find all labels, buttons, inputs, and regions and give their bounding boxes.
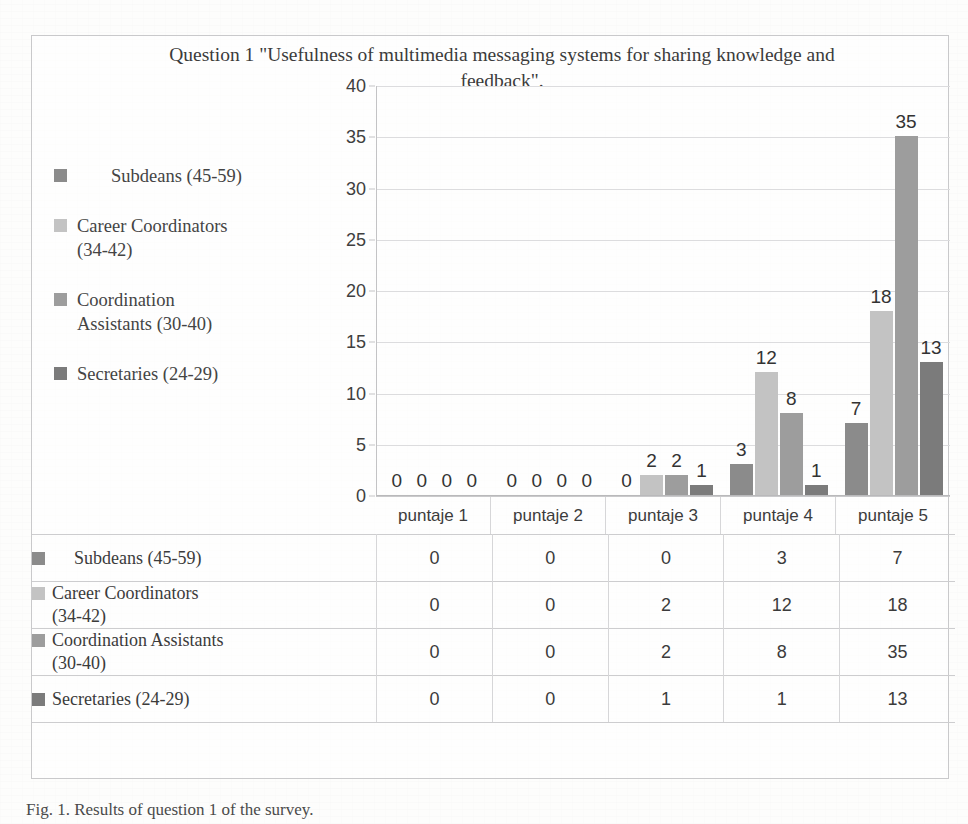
bar-value-label: 13 <box>921 337 942 359</box>
bar[interactable] <box>780 413 803 495</box>
bar-slot: 0 <box>410 86 433 495</box>
y-axis-tick-mark <box>369 342 375 343</box>
table-cell-value: 2 <box>608 582 724 629</box>
table-row: Secretaries (24-29)001113 <box>32 676 955 723</box>
data-table: Subdeans (45-59)00037Career Coordinators… <box>32 534 955 723</box>
bar-slot: 2 <box>640 86 663 495</box>
table-row-label-text: Career Coordinators (34-42) <box>52 582 198 628</box>
bar-slot: 13 <box>920 86 943 495</box>
bar-value-label: 8 <box>786 388 797 410</box>
bar[interactable] <box>665 475 688 496</box>
table-cell-value: 0 <box>608 535 724 582</box>
bar-group: 7183513 <box>836 86 951 495</box>
table-cell-value: 35 <box>840 629 955 676</box>
table-row-label-inner: Subdeans (45-59) <box>32 547 376 570</box>
bar-value-label: 0 <box>467 470 478 492</box>
bar[interactable] <box>690 485 713 495</box>
bar-value-label: 3 <box>736 439 747 461</box>
table-cell-value: 1 <box>724 676 840 723</box>
y-axis-tick-label: 15 <box>346 332 366 353</box>
table-cell-value: 1 <box>608 676 724 723</box>
legend-item-label: Secretaries (24-29) <box>77 362 218 386</box>
table-cell-value: 2 <box>608 629 724 676</box>
table-row-label-text: Subdeans (45-59) <box>52 547 201 570</box>
y-axis-tick-label: 5 <box>356 434 366 455</box>
bar[interactable] <box>640 475 663 496</box>
y-axis-tick-labels: 4035302520151050 <box>332 86 366 496</box>
figure-container: Question 1 "Usefulness of multimedia mes… <box>31 35 949 779</box>
legend-item[interactable]: Secretaries (24-29) <box>54 362 322 386</box>
bar[interactable] <box>845 423 868 495</box>
scanned-page: Question 1 "Usefulness of multimedia mes… <box>0 0 968 824</box>
bar[interactable] <box>755 372 778 495</box>
table-cell-value: 12 <box>724 582 840 629</box>
bar-slot: 0 <box>500 86 523 495</box>
bar-value-label: 2 <box>671 450 682 472</box>
y-axis-tick-label: 30 <box>346 178 366 199</box>
y-axis-tick-mark <box>369 444 375 445</box>
bar-slot: 0 <box>385 86 408 495</box>
legend-item-label: Career Coordinators (34-42) <box>77 214 228 262</box>
bar-group: 0221 <box>607 86 722 495</box>
y-axis-tick-mark <box>369 239 375 240</box>
y-axis-tick-label: 35 <box>346 127 366 148</box>
bar[interactable] <box>895 136 918 495</box>
y-axis-tick-label: 40 <box>346 76 366 97</box>
data-table-body: Subdeans (45-59)00037Career Coordinators… <box>32 535 955 723</box>
bar-value-label: 7 <box>851 398 862 420</box>
bar-value-label: 1 <box>696 460 707 482</box>
table-cell-value: 0 <box>492 582 608 629</box>
legend-item[interactable]: Subdeans (45-59) <box>54 164 322 188</box>
table-row-label: Subdeans (45-59) <box>32 535 377 582</box>
legend-item[interactable]: Coordination Assistants (30-40) <box>54 288 322 336</box>
bar-group: 0000 <box>492 86 607 495</box>
table-row-label-inner: Career Coordinators (34-42) <box>32 582 376 628</box>
table-cell-value: 13 <box>840 676 955 723</box>
bar-slot: 1 <box>805 86 828 495</box>
y-axis-tick-mark <box>369 496 375 497</box>
legend-item-label: Coordination Assistants (30-40) <box>77 288 212 336</box>
legend-item[interactable]: Career Coordinators (34-42) <box>54 214 322 262</box>
y-axis-tick-label: 20 <box>346 281 366 302</box>
table-row-label: Coordination Assistants (30-40) <box>32 629 377 676</box>
table-row-label-inner: Coordination Assistants (30-40) <box>32 629 376 675</box>
y-axis-tick-mark <box>369 188 375 189</box>
bar-slot: 7 <box>845 86 868 495</box>
table-series-color-swatch-icon <box>32 693 45 706</box>
bar-value-label: 35 <box>896 111 917 133</box>
x-axis-category-label: puntaje 5 <box>836 497 950 534</box>
x-axis-category-header: puntaje 1puntaje 2puntaje 3puntaje 4punt… <box>376 496 950 534</box>
table-row: Coordination Assistants (30-40)002835 <box>32 629 955 676</box>
table-row-label-inner: Secretaries (24-29) <box>32 688 376 711</box>
table-row-label-text: Coordination Assistants (30-40) <box>52 629 224 675</box>
bar[interactable] <box>805 485 828 495</box>
chart-legend: Subdeans (45-59)Career Coordinators (34-… <box>54 164 322 412</box>
y-axis-tick-label: 10 <box>346 383 366 404</box>
legend-color-swatch-icon <box>54 367 67 380</box>
bar[interactable] <box>730 464 753 495</box>
bar-slot: 2 <box>665 86 688 495</box>
bar-chart: Question 1 "Usefulness of multimedia mes… <box>32 36 950 534</box>
bar-value-label: 0 <box>581 470 592 492</box>
table-cell-value: 0 <box>377 676 493 723</box>
table-series-color-swatch-icon <box>32 552 45 565</box>
bar-slot: 18 <box>870 86 893 495</box>
table-row: Career Coordinators (34-42)0021218 <box>32 582 955 629</box>
bar-slot: 0 <box>615 86 638 495</box>
plot-area: 000000000221312817183513 <box>376 86 950 496</box>
bar-value-label: 12 <box>756 347 777 369</box>
bar-value-label: 0 <box>621 470 632 492</box>
bar-slot: 35 <box>895 86 918 495</box>
bar-value-label: 18 <box>871 286 892 308</box>
bar[interactable] <box>870 311 893 496</box>
table-cell-value: 7 <box>840 535 955 582</box>
y-axis-tick-mark <box>369 393 375 394</box>
bar-group: 0000 <box>377 86 492 495</box>
bar[interactable] <box>920 362 943 495</box>
table-row-label: Secretaries (24-29) <box>32 676 377 723</box>
bar-value-label: 0 <box>556 470 567 492</box>
bar-group: 31281 <box>721 86 836 495</box>
table-cell-value: 0 <box>492 629 608 676</box>
y-axis-tick-label: 25 <box>346 229 366 250</box>
x-axis-category-label: puntaje 3 <box>606 497 721 534</box>
